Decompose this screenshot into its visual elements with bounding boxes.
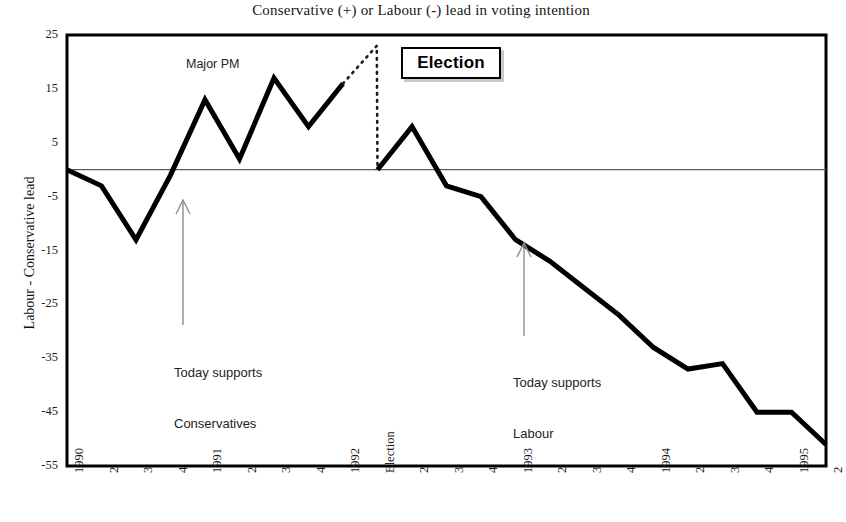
x-tick-label: 2	[693, 467, 708, 473]
x-tick-label: Election	[383, 431, 398, 473]
y-tick-label: 25	[18, 27, 58, 42]
annotation-line-1: Today supports	[174, 364, 262, 381]
y-tick-label: 15	[18, 81, 58, 96]
election-callout-box: Election	[401, 47, 501, 79]
annotation-major-pm: Major PM	[186, 56, 239, 73]
y-tick-label: -15	[18, 243, 58, 258]
x-tick-label: 1995	[797, 448, 812, 473]
data-line-pre-election	[67, 78, 343, 240]
x-tick-label: 4	[176, 467, 191, 473]
y-tick-label: 5	[18, 135, 58, 150]
arrow-today-supports-conservatives	[176, 200, 190, 325]
x-tick-label: 2	[831, 467, 846, 473]
x-tick-label: 4	[762, 467, 777, 473]
x-tick-label: 1994	[659, 448, 674, 473]
y-tick-label: -25	[18, 296, 58, 311]
data-line-election-dotted	[343, 46, 378, 170]
x-tick-label: 1990	[72, 448, 87, 473]
annotation-line-2: Labour	[513, 425, 601, 442]
x-tick-label: 3	[279, 467, 294, 473]
x-tick-label: 4	[314, 467, 329, 473]
y-tick-label: -35	[18, 350, 58, 365]
x-tick-label: 2	[107, 467, 122, 473]
annotation-line-2: Conservatives	[174, 415, 262, 432]
annotation-today-supports-conservatives: Today supports Conservatives	[174, 330, 262, 466]
x-tick-label: 1992	[348, 448, 363, 473]
x-tick-label: 2	[245, 467, 260, 473]
chart-title: Conservative (+) or Labour (-) lead in v…	[0, 2, 842, 19]
arrow-today-supports-labour	[517, 243, 531, 336]
y-tick-label: -45	[18, 404, 58, 419]
x-tick-label: 2	[417, 467, 432, 473]
annotation-line-1: Today supports	[513, 374, 601, 391]
x-tick-label: 3	[728, 467, 743, 473]
x-tick-label: 3	[452, 467, 467, 473]
y-tick-label: -5	[18, 189, 58, 204]
x-tick-label: 4	[624, 467, 639, 473]
x-tick-label: 3	[141, 467, 156, 473]
annotation-today-supports-labour: Today supports Labour	[513, 340, 601, 476]
y-tick-label: -55	[18, 458, 58, 473]
x-tick-label: 4	[486, 467, 501, 473]
data-line-post-election	[378, 127, 827, 445]
